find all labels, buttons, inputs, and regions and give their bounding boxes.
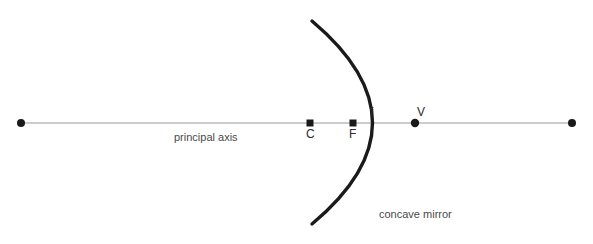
- center-of-curvature-marker: [307, 120, 314, 127]
- center-of-curvature-label: C: [306, 128, 315, 140]
- focal-point-label: F: [349, 128, 356, 140]
- vertex-label: V: [417, 106, 425, 118]
- principal-axis-label: principal axis: [174, 132, 238, 143]
- focal-length-label: f: [370, 106, 373, 118]
- diagram-canvas: [0, 0, 593, 244]
- vertex-marker: [411, 119, 419, 127]
- focal-point-marker: [350, 120, 357, 127]
- optics-diagram: principal axis concave mirror C F f V: [0, 0, 593, 244]
- concave-mirror-label: concave mirror: [379, 209, 452, 220]
- axis-right-endpoint-dot: [568, 119, 576, 127]
- axis-left-endpoint-dot: [17, 119, 25, 127]
